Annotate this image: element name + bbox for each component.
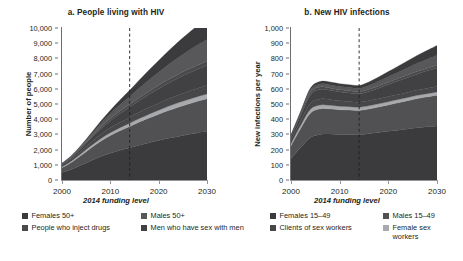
panel-a-area-chart	[62, 28, 207, 180]
y-tick-mark	[55, 149, 58, 150]
legend-item-men-who-have-sex-with-men: Men who have sex with men	[141, 224, 244, 233]
panel-b-xlabel: 2014 funding level	[231, 196, 463, 205]
x-tick-mark	[110, 181, 111, 184]
y-tick-label: 900	[271, 39, 283, 48]
x-tick-label: 2000	[53, 187, 71, 196]
x-tick-label: 2000	[282, 187, 300, 196]
y-tick-mark	[55, 164, 58, 165]
legend-item-people-who-inject-drugs: People who inject drugs	[22, 224, 110, 233]
y-tick-mark	[286, 134, 289, 135]
y-tick-label: 800	[271, 54, 283, 63]
panel-b-area-chart	[291, 28, 437, 180]
y-tick-mark	[286, 119, 289, 120]
legend-item-males-15-49: Males 15–49	[383, 212, 435, 221]
legend-item-female-sex-workers: Female sex workers	[383, 224, 439, 241]
y-tick-mark	[286, 149, 289, 150]
legend-label-men-who-have-sex-with-men: Men who have sex with men	[151, 224, 244, 233]
y-tick-mark	[55, 58, 58, 59]
y-tick-label: 7,000	[34, 69, 53, 78]
y-tick-label: 3,000	[34, 130, 53, 139]
y-tick-mark	[286, 180, 289, 181]
x-tick-mark	[207, 181, 208, 184]
legend-label-female-sex-workers: Female sex workers	[393, 224, 440, 241]
y-tick-mark	[55, 104, 58, 105]
panel-a-xlabel: 2014 funding level	[0, 196, 232, 205]
legend-item-clients-of-sex-workers: Clients of sex workers	[270, 224, 352, 233]
y-tick-label: 10,000	[29, 24, 52, 33]
y-tick-label: 9,000	[34, 39, 53, 48]
x-tick-mark	[340, 181, 341, 184]
y-tick-label: 6,000	[34, 84, 53, 93]
chart-legend: Females 50+ Males 50+ People who inject …	[0, 208, 463, 261]
legend-swatch-people-who-inject-drugs	[22, 225, 28, 231]
x-tick-mark	[62, 181, 63, 184]
legend-label-clients-of-sex-workers: Clients of sex workers	[280, 224, 352, 233]
legend-swatch-females-50plus	[22, 213, 28, 219]
y-tick-label: 8,000	[34, 54, 53, 63]
y-tick-mark	[55, 88, 58, 89]
y-tick-mark	[55, 180, 58, 181]
y-tick-mark	[286, 73, 289, 74]
legend-label-females-15-49: Females 15–49	[280, 212, 331, 221]
y-tick-label: 1,000	[265, 24, 284, 33]
chart-panel-b: b. New HIV infections New infections per…	[231, 0, 463, 205]
y-tick-mark	[55, 28, 58, 29]
legend-label-males-15-49: Males 15–49	[393, 212, 435, 221]
legend-swatch-female-sex-workers	[383, 225, 389, 231]
y-tick-mark	[55, 43, 58, 44]
legend-swatch-men-who-have-sex-with-men	[141, 225, 147, 231]
y-tick-mark	[286, 58, 289, 59]
panel-b-y-axis: 01002003004005006007008009001,000	[231, 28, 289, 180]
legend-swatch-males-15-49	[383, 213, 389, 219]
y-tick-label: 0	[279, 176, 283, 185]
x-tick-label: 2020	[379, 187, 397, 196]
legend-label-males-50plus: Males 50+	[151, 212, 185, 221]
legend-swatch-females-15-49	[270, 213, 276, 219]
y-tick-label: 400	[271, 115, 283, 124]
x-tick-label: 2010	[101, 187, 119, 196]
y-tick-label: 600	[271, 84, 283, 93]
x-tick-mark	[437, 181, 438, 184]
y-tick-mark	[286, 88, 289, 89]
x-tick-label: 2030	[428, 187, 446, 196]
x-tick-label: 2030	[198, 187, 216, 196]
y-tick-label: 100	[271, 160, 283, 169]
y-tick-label: 4,000	[34, 115, 53, 124]
panel-a-y-axis: 01,0002,0003,0004,0005,0006,0007,0008,00…	[0, 28, 58, 180]
y-tick-mark	[286, 43, 289, 44]
legend-item-females-15-49: Females 15–49	[270, 212, 330, 221]
y-tick-label: 200	[271, 145, 283, 154]
y-tick-label: 300	[271, 130, 283, 139]
panel-b-title: b. New HIV infections	[231, 8, 463, 17]
x-tick-label: 2020	[150, 187, 168, 196]
y-tick-mark	[55, 119, 58, 120]
y-tick-mark	[55, 134, 58, 135]
legend-swatch-clients-of-sex-workers	[270, 225, 276, 231]
legend-item-females-50plus: Females 50+	[22, 212, 74, 221]
legend-label-females-50plus: Females 50+	[32, 212, 75, 221]
y-tick-label: 1,000	[34, 160, 53, 169]
y-tick-mark	[286, 104, 289, 105]
x-tick-mark	[388, 181, 389, 184]
y-tick-label: 0	[48, 176, 52, 185]
y-tick-label: 700	[271, 69, 283, 78]
legend-swatch-males-50plus	[141, 213, 147, 219]
legend-label-people-who-inject-drugs: People who inject drugs	[32, 224, 110, 233]
chart-panel-a: a. People living with HIV Number of peop…	[0, 0, 232, 205]
y-tick-mark	[286, 164, 289, 165]
panel-b-plot-area	[291, 28, 437, 180]
legend-item-males-50plus: Males 50+	[141, 212, 185, 221]
y-tick-mark	[286, 28, 289, 29]
panel-a-title: a. People living with HIV	[0, 8, 232, 17]
y-tick-mark	[55, 73, 58, 74]
x-tick-mark	[159, 181, 160, 184]
x-tick-label: 2010	[331, 187, 349, 196]
y-tick-label: 2,000	[34, 145, 53, 154]
panel-a-plot-area	[62, 28, 207, 180]
y-tick-label: 5,000	[34, 100, 53, 109]
x-tick-mark	[291, 181, 292, 184]
y-tick-label: 500	[271, 100, 283, 109]
